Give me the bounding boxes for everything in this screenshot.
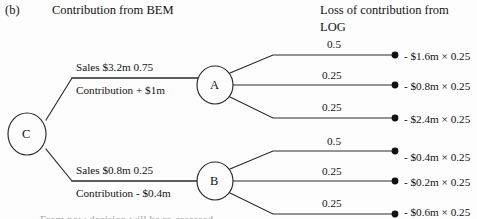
right-header-line-1: Loss of contribution from [320, 4, 449, 17]
terminal-dot [392, 115, 399, 122]
branch-upper-contribution-label: Contribution + $1m [76, 85, 165, 96]
branch-lower-contribution-label: Contribution - $0.4m [76, 188, 171, 199]
probability-a-2: 0.25 [322, 70, 342, 81]
probability-b-1: 0.5 [327, 136, 341, 147]
outcome-b-1: - $0.4m × 0.25 [404, 152, 470, 163]
terminal-dot [392, 148, 399, 155]
terminal-dot [392, 178, 399, 185]
probability-a-3: 0.25 [322, 102, 342, 113]
branch-lower-sales-label: Sales $0.8m 0.25 [76, 165, 153, 176]
probability-b-2: 0.25 [322, 166, 342, 177]
probability-b-3: 0.25 [322, 198, 342, 209]
terminal-dot [392, 52, 399, 59]
branch-a-outcome-1 [230, 55, 393, 73]
outcome-b-3: - $0.6m × 0.25 [404, 207, 470, 218]
outcome-a-2: - $0.8m × 0.25 [404, 81, 470, 92]
node-c-label: C [22, 128, 30, 141]
footnote-cut-off: From now decision will be re-assessed [40, 214, 213, 219]
terminal-dot [392, 82, 399, 89]
terminal-dot [392, 211, 399, 218]
outcome-a-1: - $1.6m × 0.25 [404, 51, 470, 62]
node-b-label: B [210, 175, 218, 188]
branch-b-outcome-3 [230, 193, 393, 214]
outcome-a-3: - $2.4m × 0.25 [404, 114, 470, 125]
branch-a-outcome-3 [230, 97, 393, 118]
branch-upper-sales-label: Sales $3.2m 0.75 [76, 62, 153, 73]
right-header-line-2: LOG [320, 21, 346, 34]
outcome-b-2: - $0.2m × 0.25 [404, 177, 470, 188]
node-a-label: A [210, 79, 219, 92]
probability-a-1: 0.5 [327, 39, 341, 50]
figure-title: Contribution from BEM [52, 4, 174, 17]
panel-letter: (b) [5, 4, 20, 17]
branch-b-outcome-1 [230, 151, 393, 169]
